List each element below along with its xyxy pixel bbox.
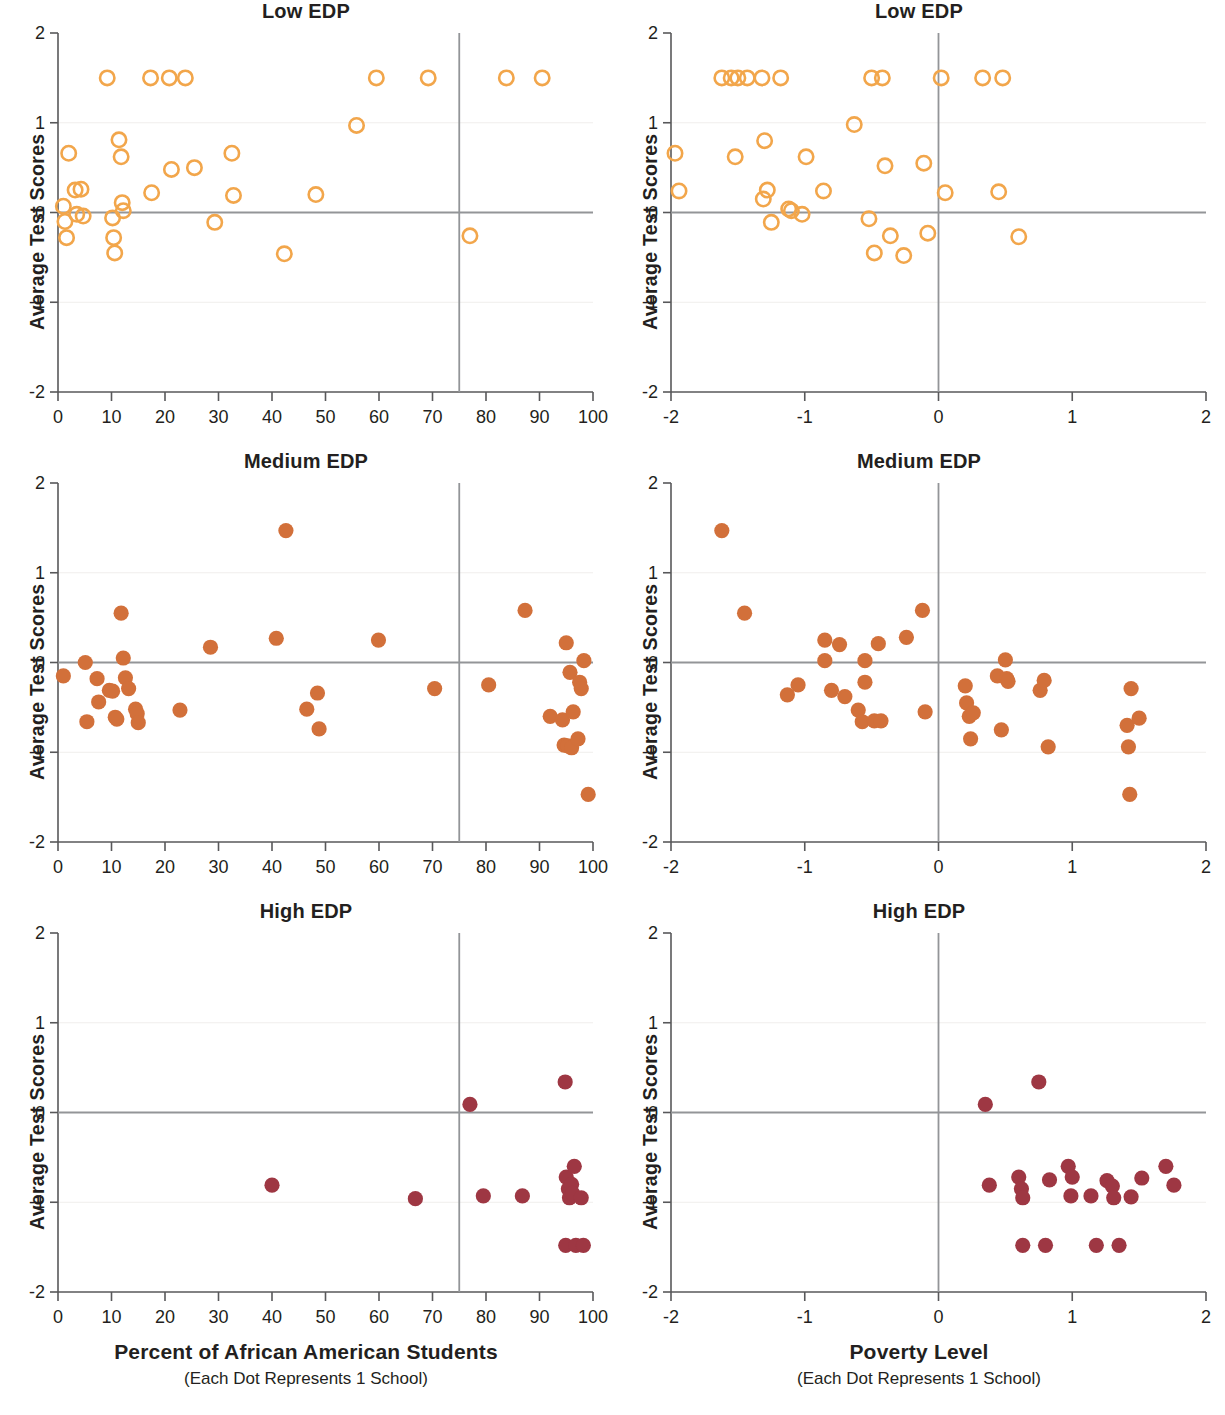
- data-point: [714, 523, 729, 538]
- data-point: [672, 184, 686, 198]
- x-tick-label: 80: [476, 857, 496, 877]
- data-point: [1134, 1170, 1149, 1185]
- data-point: [1121, 739, 1136, 754]
- x-tick-label: 40: [262, 857, 282, 877]
- data-point: [921, 226, 935, 240]
- x-axis-title-race: Percent of African American Students: [0, 1340, 612, 1364]
- x-tick-label: 80: [476, 407, 496, 427]
- data-point: [100, 71, 114, 85]
- x-tick-label: 20: [155, 407, 175, 427]
- data-point: [817, 632, 832, 647]
- x-tick-label: 20: [155, 1307, 175, 1327]
- panel-medium-edp-poverty: Medium EDP Average Test Scores -2-1012-2…: [613, 450, 1225, 890]
- data-point: [740, 71, 754, 85]
- data-point: [162, 71, 176, 85]
- data-point: [918, 704, 933, 719]
- y-tick-label: -1: [642, 292, 658, 312]
- data-point: [816, 184, 830, 198]
- scatter-plot-low-edp-poverty: -2-1012-2-1012: [613, 0, 1225, 440]
- data-point: [106, 230, 120, 244]
- data-point: [875, 71, 889, 85]
- y-tick-label: 1: [648, 563, 658, 583]
- data-point: [938, 186, 952, 200]
- data-point: [226, 188, 240, 202]
- y-tick-label: 2: [35, 23, 45, 43]
- y-tick-label: 1: [648, 1013, 658, 1033]
- data-point: [1166, 1178, 1181, 1193]
- y-tick-label: 0: [648, 203, 658, 223]
- data-point: [164, 162, 178, 176]
- figure-grid: Low EDP Average Test Scores -2-101201020…: [0, 0, 1225, 1415]
- data-point: [958, 678, 973, 693]
- panel-low-edp-poverty: Low EDP Average Test Scores -2-1012-2-10…: [613, 0, 1225, 440]
- y-tick-label: -2: [29, 832, 45, 852]
- data-point: [1065, 1170, 1080, 1185]
- x-tick-label: 2: [1201, 857, 1211, 877]
- data-point: [567, 1159, 582, 1174]
- data-point: [408, 1191, 423, 1206]
- data-point: [867, 246, 881, 260]
- data-point: [269, 631, 284, 646]
- data-point: [517, 603, 532, 618]
- data-point: [857, 653, 872, 668]
- data-point: [499, 71, 513, 85]
- data-point: [773, 71, 787, 85]
- x-axis-subtitle-poverty: (Each Dot Represents 1 School): [613, 1369, 1225, 1389]
- x-tick-label: 2: [1201, 407, 1211, 427]
- data-point: [1158, 1159, 1173, 1174]
- data-point: [558, 1074, 573, 1089]
- scatter-plot-high-edp-race: -2-10120102030405060708090100: [0, 900, 612, 1340]
- data-point: [208, 215, 222, 229]
- x-axis-caption-right: Poverty Level (Each Dot Represents 1 Sch…: [613, 1340, 1225, 1389]
- x-tick-label: 30: [208, 407, 228, 427]
- data-point: [108, 246, 122, 260]
- data-point: [998, 652, 1013, 667]
- y-tick-label: -2: [29, 1282, 45, 1302]
- y-tick-label: 2: [648, 923, 658, 943]
- data-point: [79, 714, 94, 729]
- data-point: [299, 702, 314, 717]
- y-tick-label: -2: [29, 382, 45, 402]
- data-point: [581, 787, 596, 802]
- x-tick-label: 0: [53, 1307, 63, 1327]
- data-point: [114, 606, 129, 621]
- panel-high-edp-poverty: High EDP Average Test Scores -2-1012-2-1…: [613, 900, 1225, 1340]
- x-tick-label: -2: [663, 1307, 679, 1327]
- data-point: [917, 156, 931, 170]
- data-point: [1124, 681, 1139, 696]
- data-point: [421, 71, 435, 85]
- x-tick-label: 0: [933, 407, 943, 427]
- x-tick-label: 80: [476, 1307, 496, 1327]
- panel-high-edp-race: High EDP Average Test Scores -2-10120102…: [0, 900, 612, 1340]
- data-point: [756, 192, 770, 206]
- x-tick-label: 100: [578, 857, 608, 877]
- data-point: [121, 681, 136, 696]
- data-point: [203, 640, 218, 655]
- data-point: [187, 160, 201, 174]
- x-tick-label: 10: [101, 857, 121, 877]
- scatter-plot-medium-edp-poverty: -2-1012-2-1012: [613, 450, 1225, 890]
- data-point: [832, 637, 847, 652]
- data-point: [994, 722, 1009, 737]
- data-point: [1031, 1074, 1046, 1089]
- x-tick-label: 60: [369, 857, 389, 877]
- data-point: [871, 636, 886, 651]
- data-point: [91, 694, 106, 709]
- data-point: [59, 230, 73, 244]
- data-point: [991, 185, 1005, 199]
- panel-medium-edp-race: Medium EDP Average Test Scores -2-101201…: [0, 450, 612, 890]
- y-tick-label: 1: [35, 1013, 45, 1033]
- x-tick-label: 10: [101, 1307, 121, 1327]
- data-point: [862, 212, 876, 226]
- x-tick-label: 0: [933, 1307, 943, 1327]
- data-point: [278, 523, 293, 538]
- x-tick-label: -1: [797, 407, 813, 427]
- data-point: [576, 1238, 591, 1253]
- x-tick-label: 20: [155, 857, 175, 877]
- data-point: [566, 704, 581, 719]
- data-point: [277, 247, 291, 261]
- data-point: [172, 702, 187, 717]
- data-point: [982, 1178, 997, 1193]
- data-point: [996, 71, 1010, 85]
- x-tick-label: 1: [1067, 1307, 1077, 1327]
